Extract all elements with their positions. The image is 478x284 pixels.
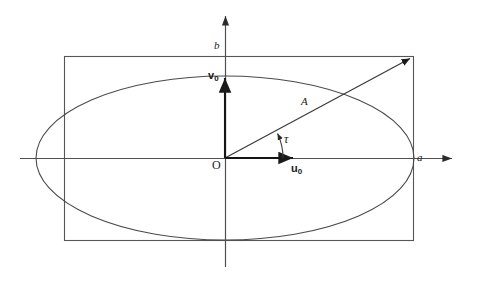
label-unit-vector-v0-subscript: 0: [214, 74, 218, 83]
diagram-svg: [0, 0, 478, 284]
figure-canvas: b a O A τ u0 v0: [0, 0, 478, 284]
label-unit-vector-u0: u0: [291, 163, 302, 176]
label-semi-minor-axis: b: [214, 40, 220, 51]
label-amplitude-vector: A: [301, 96, 308, 107]
label-semi-major-axis: a: [417, 152, 423, 163]
label-origin: O: [212, 159, 221, 171]
amplitude-vector-arrow: [225, 59, 410, 159]
label-unit-vector-v0: v0: [208, 70, 219, 83]
label-unit-vector-u0-subscript: 0: [298, 167, 302, 176]
label-unit-vector-u0-base: u: [291, 162, 298, 174]
angle-arc-tau: [278, 134, 283, 159]
label-angle-tau: τ: [284, 133, 288, 145]
